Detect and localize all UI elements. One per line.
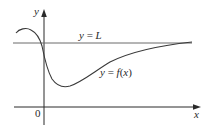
origin-label: 0 <box>35 107 41 119</box>
x-axis-label: x <box>193 108 199 120</box>
asymptote-label: y = L <box>78 29 102 41</box>
limit-at-infinity-diagram: y x 0 y = L y = f(x) <box>0 0 209 129</box>
y-axis-arrow-icon <box>41 9 47 17</box>
curve-label: y = f(x) <box>99 66 132 79</box>
function-curve <box>16 29 192 87</box>
y-axis-label: y <box>33 5 39 17</box>
